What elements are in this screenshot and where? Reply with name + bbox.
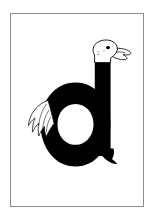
duck-letter-illustration: [0, 0, 155, 215]
duck-head: [93, 40, 117, 63]
duck-tail: [99, 148, 117, 164]
flashcard: [0, 0, 155, 215]
letter-d-stem: [95, 61, 111, 157]
duck-eye: [106, 46, 110, 49]
letter-body-group: [41, 61, 118, 167]
duck-head-group: [93, 40, 131, 63]
